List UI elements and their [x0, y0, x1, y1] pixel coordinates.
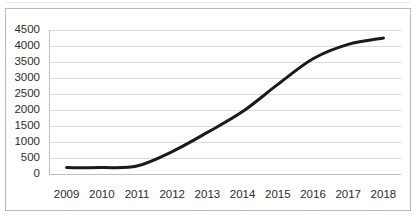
- x-axis-tick-label: 2010: [84, 188, 120, 200]
- y-axis-tick-label: 1500: [2, 119, 40, 131]
- y-axis-tick-label: 500: [2, 151, 40, 163]
- x-axis-tick-label: 2015: [260, 188, 296, 200]
- plot-area: [0, 0, 418, 220]
- y-axis-tick-label: 1000: [2, 135, 40, 147]
- y-axis-tick-label: 2000: [2, 103, 40, 115]
- x-axis-tick-label: 2012: [154, 188, 190, 200]
- y-axis-tick-label: 4500: [2, 23, 40, 35]
- gridlines: [49, 31, 401, 159]
- data-series: [67, 38, 384, 168]
- x-axis-tick-label: 2009: [49, 188, 85, 200]
- y-axis-tick-label: 0: [2, 167, 40, 179]
- y-axis-tick-label: 2500: [2, 87, 40, 99]
- y-axis-tick-label: 4000: [2, 39, 40, 51]
- x-axis-tick-label: 2018: [365, 188, 401, 200]
- x-axis-tick-label: 2013: [189, 188, 225, 200]
- x-axis-tick-label: 2011: [119, 188, 155, 200]
- x-axis-tick-label: 2017: [330, 188, 366, 200]
- axis-lines: [49, 30, 401, 175]
- y-axis-tick-label: 3000: [2, 71, 40, 83]
- series-line: [67, 38, 384, 168]
- x-axis-tick-label: 2016: [295, 188, 331, 200]
- x-axis-tick-label: 2014: [225, 188, 261, 200]
- y-axis-tick-label: 3500: [2, 55, 40, 67]
- line-chart: 050010001500200025003000350040004500 200…: [0, 0, 418, 220]
